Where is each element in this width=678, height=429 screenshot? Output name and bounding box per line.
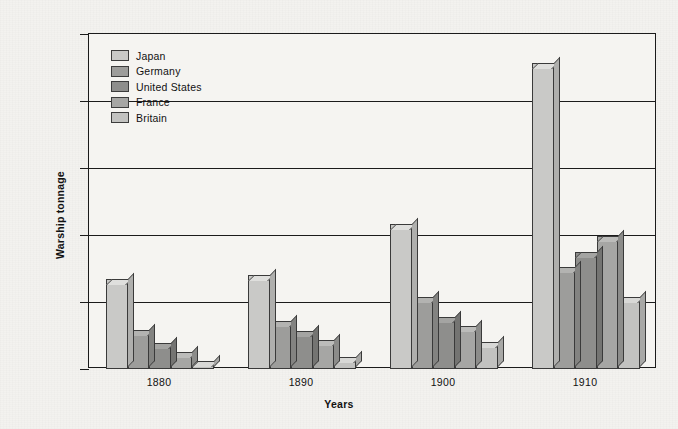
bar <box>106 279 128 369</box>
gridline <box>89 235 655 236</box>
bar-side-face <box>455 311 461 367</box>
x-axis-tick-label: 1910 <box>514 376 656 388</box>
bar-side-face <box>554 57 560 367</box>
legend-swatch <box>111 112 129 123</box>
legend-swatch <box>111 97 129 108</box>
bar-side-face <box>640 290 646 367</box>
y-axis-tick <box>80 101 89 102</box>
bar-side-face <box>498 335 504 367</box>
bar-side-face <box>575 261 581 367</box>
bar-side-face <box>214 355 220 367</box>
legend-item: Germany <box>111 64 202 80</box>
x-axis-title: Years <box>0 398 678 410</box>
bar-side-face <box>128 273 134 367</box>
bar-side-face <box>149 324 155 367</box>
bar-side-face <box>270 269 276 367</box>
legend-item: France <box>111 95 202 111</box>
y-axis-title: Warship tonnage <box>54 171 66 259</box>
x-axis-tick-label: 1880 <box>88 376 230 388</box>
legend-swatch <box>111 66 129 77</box>
bar-side-face <box>356 351 362 367</box>
bar-side-face <box>291 315 297 367</box>
bar-side-face <box>618 230 624 367</box>
legend-swatch <box>111 50 129 61</box>
legend-label: United States <box>136 81 202 93</box>
bar <box>248 275 270 369</box>
chart-figure: Warship tonnage JapanGermanyUnited State… <box>0 0 678 429</box>
bar-side-face <box>313 325 319 367</box>
y-axis-tick <box>80 369 89 370</box>
bar <box>390 224 412 369</box>
legend-item: Britain <box>111 110 202 126</box>
x-axis-tick-label: 1900 <box>372 376 514 388</box>
y-axis-tick <box>80 168 89 169</box>
y-axis-tick <box>80 235 89 236</box>
chart-legend: JapanGermanyUnited StatesFranceBritain <box>111 48 202 126</box>
x-axis-tick-label: 1890 <box>230 376 372 388</box>
bar <box>532 63 554 369</box>
legend-label: France <box>136 96 170 108</box>
bar-side-face <box>412 218 418 367</box>
legend-label: Germany <box>136 65 181 77</box>
y-axis-tick <box>80 302 89 303</box>
legend-label: Britain <box>136 112 167 124</box>
legend-item: United States <box>111 79 202 95</box>
legend-swatch <box>111 81 129 92</box>
gridline <box>89 168 655 169</box>
legend-label: Japan <box>136 50 166 62</box>
y-axis-tick <box>80 34 89 35</box>
plot-area: JapanGermanyUnited StatesFranceBritain <box>88 33 656 368</box>
bar-side-face <box>433 290 439 367</box>
bar-side-face <box>597 246 603 367</box>
legend-item: Japan <box>111 48 202 64</box>
bar-side-face <box>476 320 482 367</box>
